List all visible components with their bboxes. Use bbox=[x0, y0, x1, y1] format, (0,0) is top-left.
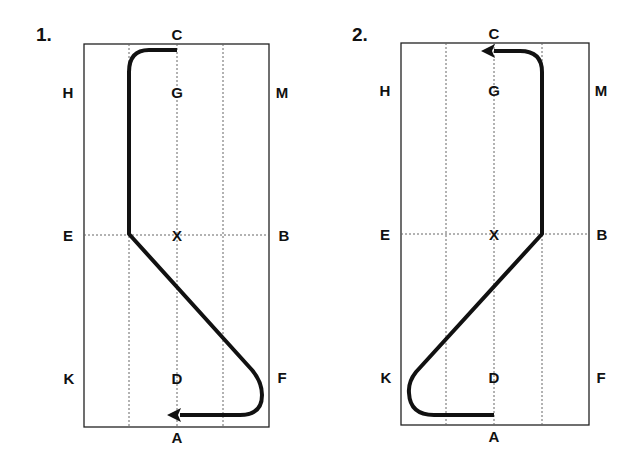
diagram-panel-1: 1. C G H M E X B K D F A bbox=[0, 0, 318, 453]
panel-number: 2. bbox=[352, 24, 368, 46]
label-k: K bbox=[381, 370, 392, 385]
label-x: X bbox=[172, 228, 182, 243]
label-c: C bbox=[489, 26, 500, 41]
label-c: C bbox=[172, 27, 183, 42]
label-a: A bbox=[172, 430, 183, 445]
arrowhead-icon bbox=[167, 408, 181, 422]
label-f: F bbox=[277, 370, 286, 385]
label-d: D bbox=[172, 371, 183, 386]
arrowhead-icon bbox=[481, 44, 495, 58]
label-k: K bbox=[64, 371, 75, 386]
label-f: F bbox=[596, 370, 605, 385]
label-d: D bbox=[489, 370, 500, 385]
label-h: H bbox=[63, 85, 74, 100]
label-b: B bbox=[597, 227, 608, 242]
label-b: B bbox=[279, 228, 290, 243]
panel-1-drawing bbox=[0, 0, 318, 453]
route-path bbox=[129, 50, 262, 415]
label-h: H bbox=[380, 83, 391, 98]
label-g: G bbox=[488, 83, 500, 98]
label-x: X bbox=[489, 227, 499, 242]
label-g: G bbox=[171, 85, 183, 100]
label-e: E bbox=[380, 227, 390, 242]
panel-2-drawing bbox=[318, 0, 636, 453]
label-m: M bbox=[276, 85, 289, 100]
panel-number: 1. bbox=[36, 24, 52, 46]
label-m: M bbox=[595, 83, 608, 98]
diagram-panel-2: 2. C G H M E X B K D F A bbox=[318, 0, 636, 453]
label-e: E bbox=[63, 228, 73, 243]
label-a: A bbox=[489, 429, 500, 444]
route-path bbox=[409, 51, 542, 415]
